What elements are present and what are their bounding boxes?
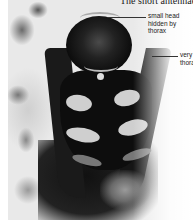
annotation-line: thorax bbox=[180, 59, 193, 67]
head-annotation: small head hidden by thorax bbox=[148, 12, 179, 35]
annotation-line: hidden by bbox=[148, 20, 179, 28]
wasp-scutellum bbox=[84, 60, 118, 72]
annotation-line: small head bbox=[148, 12, 179, 20]
annotation-line: thorax bbox=[148, 27, 179, 35]
annotation-line: very bbox=[180, 51, 193, 59]
document-page: The short antennae small head hidden by … bbox=[0, 0, 193, 220]
head-leader-line bbox=[108, 17, 146, 18]
page-margin bbox=[0, 0, 8, 220]
thorax-annotation: very thorax bbox=[180, 51, 193, 66]
section-heading: The short antennae bbox=[120, 0, 193, 6]
wasp-head-rim bbox=[80, 12, 120, 24]
wasp-dorsal-dot bbox=[97, 73, 104, 80]
thorax-leader-line bbox=[152, 56, 178, 57]
